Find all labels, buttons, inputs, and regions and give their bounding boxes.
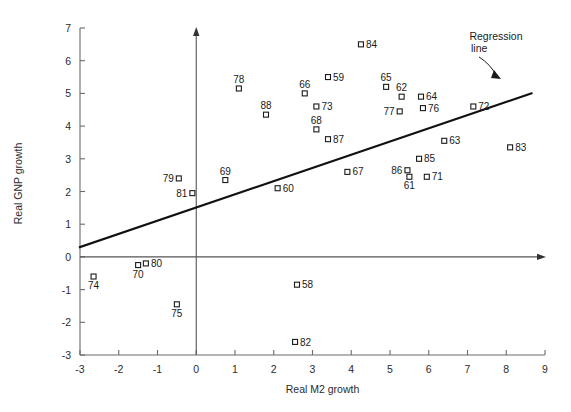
- regression-annotation-line2: line: [471, 42, 488, 54]
- data-point-62: 62: [396, 82, 408, 99]
- data-point-marker: [314, 104, 319, 109]
- data-point-77: 77: [384, 106, 403, 117]
- data-point-label: 84: [366, 39, 378, 50]
- data-point-64: 64: [419, 91, 438, 102]
- y-axis-arrowhead: [193, 27, 199, 36]
- data-point-label: 59: [333, 72, 345, 83]
- data-point-71: 71: [424, 171, 443, 182]
- data-point-label: 64: [426, 91, 438, 102]
- data-point-85: 85: [417, 153, 436, 164]
- scatter-plot-figure: -3-2-101234567-3-2-101234567895859606162…: [0, 0, 571, 412]
- data-point-67: 67: [345, 166, 364, 177]
- y-tick-label: 6: [65, 55, 71, 67]
- data-point-marker: [190, 191, 195, 196]
- data-point-72: 72: [471, 101, 490, 112]
- data-point-marker: [264, 112, 269, 117]
- data-point-60: 60: [275, 183, 294, 194]
- data-point-59: 59: [326, 72, 345, 83]
- x-tick-label: 2: [271, 363, 277, 375]
- data-point-82: 82: [293, 337, 312, 348]
- data-point-68: 68: [311, 115, 323, 132]
- data-point-80: 80: [143, 258, 162, 269]
- plot-canvas: -3-2-101234567-3-2-101234567895859606162…: [0, 0, 571, 412]
- data-point-label: 60: [283, 183, 295, 194]
- data-point-81: 81: [176, 188, 195, 199]
- data-point-marker: [314, 127, 319, 132]
- data-point-73: 73: [314, 101, 333, 112]
- data-point-69: 69: [220, 166, 232, 183]
- data-point-63: 63: [442, 135, 461, 146]
- x-tick-label: 4: [348, 363, 354, 375]
- x-tick-label: 7: [465, 363, 471, 375]
- data-point-label: 85: [424, 153, 436, 164]
- regression-annotation-line1: Regression: [469, 30, 522, 42]
- data-point-76: 76: [420, 103, 439, 114]
- data-point-marker: [424, 174, 429, 179]
- data-point-label: 79: [163, 173, 175, 184]
- data-point-marker: [471, 104, 476, 109]
- data-point-66: 66: [299, 79, 311, 96]
- data-point-marker: [143, 261, 148, 266]
- data-point-79: 79: [163, 173, 182, 184]
- data-point-marker: [136, 263, 141, 268]
- data-point-58: 58: [295, 279, 314, 290]
- data-point-marker: [407, 174, 412, 179]
- data-point-label: 71: [432, 171, 444, 182]
- data-point-74: 74: [88, 274, 100, 291]
- data-point-marker: [417, 156, 422, 161]
- data-point-marker: [91, 274, 96, 279]
- data-point-label: 72: [478, 101, 490, 112]
- data-point-marker: [508, 145, 513, 150]
- data-point-87: 87: [326, 134, 345, 145]
- data-point-label: 75: [171, 308, 183, 319]
- data-point-marker: [326, 137, 331, 142]
- data-point-marker: [405, 168, 410, 173]
- regression-annotation-arrowhead: [491, 70, 501, 79]
- data-point-marker: [174, 302, 179, 307]
- data-point-70: 70: [133, 263, 145, 280]
- x-tick-label: 5: [387, 363, 393, 375]
- data-point-label: 77: [384, 106, 396, 117]
- x-tick-label: 9: [542, 363, 548, 375]
- data-point-marker: [326, 75, 331, 80]
- data-point-marker: [420, 106, 425, 111]
- data-point-label: 87: [333, 134, 345, 145]
- data-point-label: 70: [133, 269, 145, 280]
- data-point-label: 63: [449, 135, 461, 146]
- data-point-marker: [397, 109, 402, 114]
- data-point-marker: [295, 282, 300, 287]
- data-point-marker: [236, 86, 241, 91]
- data-point-marker: [176, 176, 181, 181]
- x-tick-label: 6: [426, 363, 432, 375]
- y-tick-label: 3: [65, 153, 71, 165]
- data-point-label: 67: [352, 166, 364, 177]
- data-point-83: 83: [508, 142, 527, 153]
- x-tick-label: 1: [232, 363, 238, 375]
- y-tick-label: -3: [62, 349, 71, 361]
- x-tick-label: -2: [114, 363, 123, 375]
- x-tick-label: -3: [75, 363, 84, 375]
- data-point-label: 69: [220, 166, 232, 177]
- data-point-75: 75: [171, 302, 183, 319]
- x-tick-label: 0: [193, 363, 199, 375]
- data-point-marker: [442, 138, 447, 143]
- data-point-marker: [358, 42, 363, 47]
- x-tick-label: 3: [310, 363, 316, 375]
- y-tick-label: -2: [62, 316, 71, 328]
- data-point-label: 65: [381, 72, 393, 83]
- x-tick-label: -1: [153, 363, 162, 375]
- y-tick-label: -1: [62, 284, 71, 296]
- data-point-label: 82: [300, 337, 312, 348]
- data-point-label: 62: [396, 82, 408, 93]
- data-point-label: 78: [233, 74, 245, 85]
- data-point-label: 58: [302, 279, 314, 290]
- regression-line: [80, 93, 531, 247]
- data-point-marker: [223, 178, 228, 183]
- data-point-label: 74: [88, 280, 100, 291]
- y-tick-label: 1: [65, 218, 71, 230]
- data-point-marker: [293, 339, 298, 344]
- y-tick-label: 0: [65, 251, 71, 263]
- data-point-label: 80: [151, 258, 163, 269]
- x-axis-title: Real M2 growth: [286, 383, 360, 395]
- data-point-88: 88: [260, 100, 272, 117]
